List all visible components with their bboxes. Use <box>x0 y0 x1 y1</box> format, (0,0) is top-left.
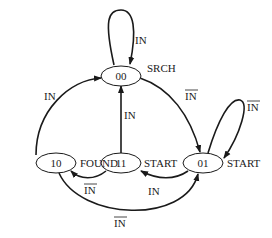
label-10-00: IN <box>44 90 56 102</box>
edge-10-01 <box>59 173 198 210</box>
label-00-01: IN <box>185 90 197 102</box>
state-00-output: SRCH <box>147 62 176 74</box>
state-11-output: START <box>144 157 178 169</box>
label-10-01: IN <box>114 217 126 229</box>
label-11-10: IN <box>84 184 96 196</box>
diagram-svg: 00 SRCH 01 START 11 START 10 FOUND IN IN… <box>0 0 272 238</box>
state-10: 10 FOUND <box>36 153 118 173</box>
label-11-00: IN <box>124 109 136 121</box>
label-01-11: IN <box>148 185 160 197</box>
edge-00-00 <box>108 10 133 65</box>
label-00-00: IN <box>135 34 147 46</box>
label-01-01: IN <box>247 101 259 113</box>
edge-11-10 <box>71 171 106 178</box>
state-00: 00 SRCH <box>101 62 176 86</box>
state-01: 01 START <box>183 153 261 173</box>
edge-01-01 <box>208 100 244 158</box>
state-diagram: 00 SRCH 01 START 11 START 10 FOUND IN IN… <box>0 0 272 238</box>
state-01-output: START <box>227 157 261 169</box>
svg-text:00: 00 <box>116 70 128 82</box>
edge-01-11 <box>141 171 188 178</box>
state-10-output: FOUND <box>80 157 118 169</box>
svg-text:01: 01 <box>198 157 209 169</box>
svg-text:10: 10 <box>51 157 63 169</box>
